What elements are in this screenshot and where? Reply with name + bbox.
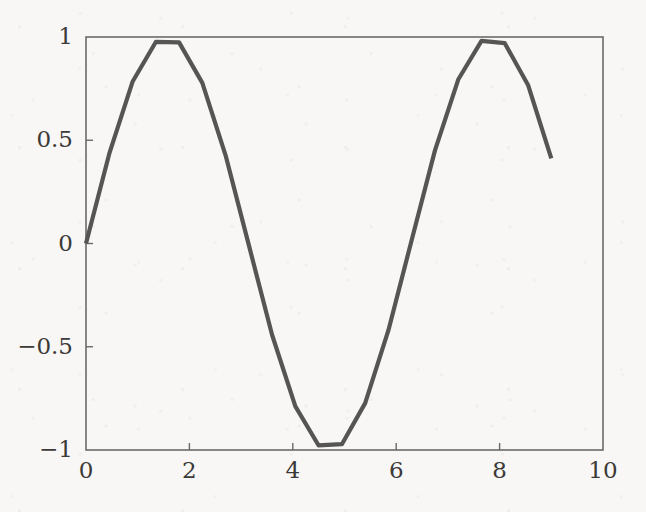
x-tick-label: 2 xyxy=(182,457,197,483)
x-tick-label: 0 xyxy=(79,457,94,483)
x-tick-label: 8 xyxy=(492,457,507,483)
data-series-group xyxy=(86,41,551,446)
x-tick-label: 6 xyxy=(389,457,404,483)
x-axis-tick-labels: 0246810 xyxy=(79,457,618,483)
y-tick-label: 0 xyxy=(58,230,73,256)
x-tick-label: 4 xyxy=(285,457,300,483)
y-tick-label: 1 xyxy=(58,23,73,49)
plot-frame xyxy=(86,37,603,450)
x-tick-label: 10 xyxy=(588,457,617,483)
chart-figure: −1−0.500.51 0246810 xyxy=(0,0,646,512)
y-tick-label: −0.5 xyxy=(17,333,73,359)
y-axis-tick-labels: −1−0.500.51 xyxy=(17,23,73,462)
plot-svg: −1−0.500.51 0246810 xyxy=(0,0,646,512)
data-line-sin-x- xyxy=(86,41,551,446)
y-tick-label: 0.5 xyxy=(36,126,73,152)
figure-page: −1−0.500.51 0246810 xyxy=(0,0,646,512)
y-tick-label: −1 xyxy=(39,436,73,462)
